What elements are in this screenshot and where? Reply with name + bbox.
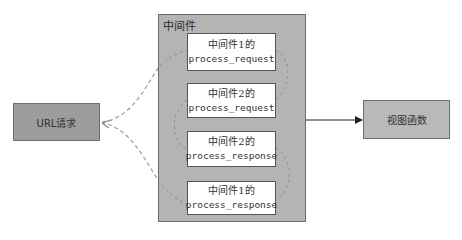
step-label-code: process_request — [189, 52, 275, 66]
step-label-code: process_request — [189, 101, 275, 115]
step-label-code: process_response — [186, 149, 278, 163]
view-function-label: 视图函数 — [387, 112, 427, 127]
url-request-label: URL请求 — [37, 115, 77, 130]
step-label-cn: 中间件2的 — [208, 135, 254, 149]
step-middleware1-response: 中间件1的 process_response — [187, 181, 276, 215]
step-label-cn: 中间件2的 — [208, 87, 254, 101]
step-label-code: process_response — [186, 198, 278, 212]
step-label-cn: 中间件1的 — [208, 38, 254, 52]
step-middleware2-response: 中间件2的 process_response — [187, 131, 276, 167]
step-middleware2-request: 中间件2的 process_request — [187, 83, 276, 118]
step-label-cn: 中间件1的 — [208, 184, 254, 198]
url-request-node: URL请求 — [13, 103, 100, 141]
step-middleware1-request: 中间件1的 process_request — [187, 33, 276, 71]
view-function-node: 视图函数 — [363, 100, 450, 139]
